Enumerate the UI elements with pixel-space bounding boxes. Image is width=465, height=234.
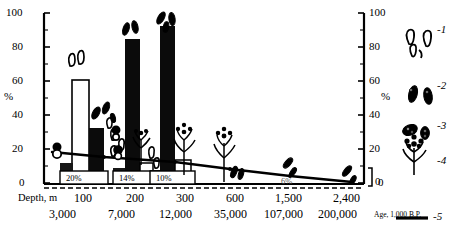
age-axis-label: Age, 1,000 B.P.: [374, 211, 421, 219]
left-axis-tick-60: 60: [12, 75, 23, 86]
legend-label-3: -3: [437, 120, 446, 131]
zero-marker-label: 0: [375, 176, 381, 187]
left-axis-tick-0: 0: [19, 177, 25, 188]
depth-tick-300: 300: [176, 192, 194, 204]
age-tick-200000: 200,000: [318, 208, 357, 220]
legend-label-5: -5: [433, 211, 442, 222]
bar-value-label-200: 14%: [119, 174, 135, 183]
depth-tick-200: 200: [126, 192, 144, 204]
left-axis: [44, 13, 50, 184]
bar-filled-200: [125, 39, 140, 184]
left-axis-tick-100: 100: [6, 7, 23, 18]
age-tick-7000: 7,000: [108, 208, 135, 220]
depth-tick-2400: 2,400: [333, 192, 360, 204]
legend-label-2: -2: [437, 80, 446, 91]
depth-tick-600: 600: [226, 192, 244, 204]
legend-filled-rod-pair-icon: [407, 85, 433, 105]
depth-tick-1500: 1,500: [275, 192, 302, 204]
bar-outline-100: [72, 80, 89, 184]
age-tick-3000: 3,000: [49, 208, 76, 220]
bar-group-200: [113, 39, 158, 184]
right-axis-tick-100: 100: [369, 7, 386, 18]
bar-group-100: [60, 80, 108, 184]
age-tick-35000: 35,000: [214, 208, 247, 220]
bar-value-label-1500: 6%: [281, 177, 292, 186]
outline-bacilli-icon: [69, 51, 84, 67]
depth-tick-100: 100: [74, 192, 92, 204]
age-tick-107000: 107,000: [264, 208, 303, 220]
chart-figure: 100 80 60 40 20 0 % 100 80 60 40 20 0 % …: [0, 0, 465, 234]
filled-rods-600: [229, 165, 245, 180]
left-axis-tick-80: 80: [12, 41, 23, 52]
left-axis-label: %: [4, 91, 13, 102]
left-axis-tick-20: 20: [12, 143, 23, 154]
depth-axis-label: Depth, m: [18, 193, 57, 204]
bar-value-label-300: 10%: [156, 174, 172, 183]
right-axis-tick-60: 60: [369, 75, 380, 86]
zero-bracket: [368, 168, 372, 186]
left-axis-tick-40: 40: [12, 109, 23, 120]
legend-outline-bacilli-icon: [407, 30, 432, 58]
age-tick-12000: 12,000: [159, 208, 192, 220]
legend-label-4: -4: [437, 155, 446, 166]
right-axis-label: %: [381, 91, 390, 102]
legend-label-1: -1: [437, 24, 446, 35]
filled-coccus-icon: [53, 143, 61, 158]
right-axis-tick-40: 40: [369, 109, 380, 120]
right-axis-tick-80: 80: [369, 41, 380, 52]
right-axis: [358, 13, 364, 184]
right-axis-tick-20: 20: [369, 143, 380, 154]
legend-plant-sketch-icon: [403, 135, 426, 175]
bar-value-label-100: 20%: [66, 174, 82, 183]
filled-rod-pair-icon-200: [121, 20, 139, 36]
legend-icons: [396, 30, 433, 218]
